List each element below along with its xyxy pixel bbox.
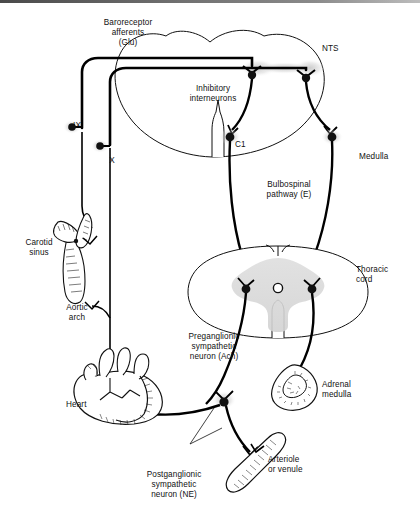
baroreceptor-afferents-label: Baroreceptor afferents (Glu) bbox=[84, 18, 172, 49]
figure-canvas: Baroreceptor afferents (Glu) NTS Inhibit… bbox=[0, 0, 420, 527]
postganglionic-leader-lines bbox=[190, 408, 222, 444]
bulbospinal-pathway-right bbox=[312, 141, 332, 262]
heart-illustration bbox=[74, 348, 162, 425]
nts-label: NTS bbox=[322, 44, 362, 54]
central-canal bbox=[273, 283, 282, 292]
nerve-ix-label: IX bbox=[68, 121, 86, 131]
heart-label: Heart bbox=[66, 400, 106, 410]
arteriole-venule-label: Arteriole or venule bbox=[268, 455, 328, 475]
bulbospinal-pathway-label: Bulbospinal pathway (E) bbox=[248, 180, 330, 200]
postganglionic-neuron-label: Postganglionic sympathetic neuron (NE) bbox=[129, 470, 219, 501]
aortic-arch-label: Aortic arch bbox=[56, 303, 98, 323]
medulla-label: Medulla bbox=[359, 152, 411, 162]
preganglionic-neuron-label: Preganglionic sympathetic neuron (Ach) bbox=[172, 332, 256, 363]
thoracic-cord-label: Thoracic cord bbox=[356, 265, 412, 285]
c1-label: C1 bbox=[235, 140, 259, 150]
adrenal-gland-illustration bbox=[272, 365, 318, 410]
carotid-sinus-illustration bbox=[54, 214, 97, 304]
nerve-x-label: X bbox=[104, 156, 120, 166]
nerve-x-cell-body bbox=[91, 139, 110, 153]
diagram-artwork bbox=[0, 0, 420, 527]
carotid-sinus-label: Carotid sinus bbox=[14, 238, 64, 258]
inhibitory-interneurons-label: Inhibitory interneurons bbox=[170, 84, 256, 104]
adrenal-medulla-label: Adrenal medulla bbox=[322, 380, 380, 400]
bulbospinal-pathway-left bbox=[230, 141, 244, 262]
